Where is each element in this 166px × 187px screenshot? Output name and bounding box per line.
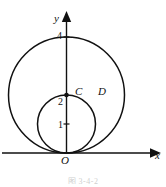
figure-caption: 图 3-4-2: [0, 175, 166, 184]
y-axis-label: y: [54, 13, 59, 24]
y-tick-label-4: 4: [57, 31, 62, 41]
y-axis-arrowhead: [62, 11, 71, 22]
y-axis: [62, 11, 71, 153]
y-tick-label-1: 1: [58, 120, 63, 130]
point-c-marker: [64, 93, 69, 98]
figure-graphic: [0, 0, 166, 187]
region-label-d: D: [98, 86, 106, 97]
figure-container: y x O C D 4 2 1 图 3-4-2: [0, 0, 166, 187]
y-tick-label-2: 2: [58, 97, 63, 107]
x-axis-label: x: [155, 150, 160, 161]
origin-label: O: [61, 155, 69, 166]
region-label-c: C: [75, 86, 82, 97]
